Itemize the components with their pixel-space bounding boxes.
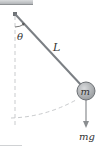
force-label: mg [79, 131, 95, 142]
angle-label: θ [17, 31, 23, 42]
length-label: L [52, 41, 60, 54]
mass-label: m [81, 86, 90, 97]
swing-arc [11, 100, 76, 118]
arrowhead-icon [83, 121, 89, 128]
pendulum-diagram: θ L m mg [0, 0, 102, 149]
ceiling-edge [0, 4, 33, 5]
bottom-rule [0, 145, 22, 146]
pendulum-rod [15, 14, 82, 86]
